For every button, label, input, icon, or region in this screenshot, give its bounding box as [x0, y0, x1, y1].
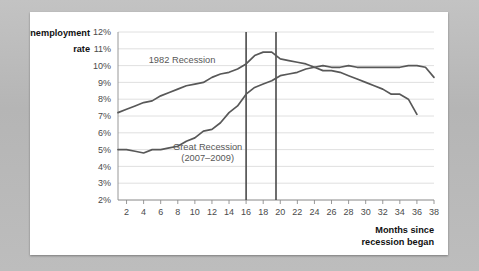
y-tick-label: 3%: [98, 178, 111, 188]
x-tick-label: 30: [361, 207, 371, 217]
x-tick-label: 38: [429, 207, 439, 217]
x-axis-title-line1: Months since: [375, 225, 434, 235]
y-axis-title-line1: Unemployment: [30, 28, 90, 38]
y-tick-label: 9%: [98, 78, 111, 88]
x-tick-label: 18: [258, 207, 268, 217]
x-tick-label: 4: [141, 207, 146, 217]
x-tick-label: 26: [327, 207, 337, 217]
x-tick-label: 10: [190, 207, 200, 217]
y-tick-label: 7%: [98, 111, 111, 121]
x-tick-label: 20: [275, 207, 285, 217]
x-axis-ticks: [127, 200, 434, 204]
x-tick-label: 24: [309, 207, 319, 217]
unemployment-rate-chart: 12%11%10%9%8%7%6%5%4%3%2% 24681012141618…: [30, 12, 448, 255]
x-tick-label: 22: [292, 207, 302, 217]
y-tick-label: 2%: [98, 195, 111, 205]
x-tick-label: 2: [124, 207, 129, 217]
annotation-1: Great Recession: [173, 142, 242, 152]
chart-canvas: 12%11%10%9%8%7%6%5%4%3%2% 24681012141618…: [30, 12, 448, 255]
x-tick-label: 12: [207, 207, 217, 217]
y-tick-label: 12%: [93, 27, 111, 37]
y-tick-label: 6%: [98, 128, 111, 138]
y-tick-label: 11%: [94, 44, 111, 54]
x-tick-label: 28: [344, 207, 354, 217]
y-tick-label: 5%: [98, 145, 111, 155]
x-tick-label: 8: [175, 207, 180, 217]
x-tick-label: 16: [241, 207, 251, 217]
x-tick-label: 32: [378, 207, 388, 217]
y-tick-label: 10%: [93, 61, 111, 71]
x-tick-label: 36: [412, 207, 422, 217]
x-tick-label: 6: [158, 207, 163, 217]
annotation-2: (2007–2009): [181, 153, 234, 163]
x-axis-title-line2: recession began: [361, 237, 434, 247]
annotation-0: 1982 Recession: [149, 55, 216, 65]
x-tick-label: 14: [224, 207, 234, 217]
y-tick-label: 8%: [98, 94, 111, 104]
y-tick-label: 4%: [98, 162, 111, 172]
series-line-great-recession: [118, 67, 417, 153]
y-axis-title-line2: rate: [73, 44, 90, 54]
figure-card: 12%11%10%9%8%7%6%5%4%3%2% 24681012141618…: [30, 12, 448, 255]
x-axis-tick-labels: 2468101214161820222426283032343638: [124, 207, 439, 217]
x-tick-label: 34: [395, 207, 405, 217]
series-annotations: 1982 RecessionGreat Recession(2007–2009): [149, 55, 243, 162]
y-axis-tick-labels: 12%11%10%9%8%7%6%5%4%3%2%: [93, 27, 111, 205]
